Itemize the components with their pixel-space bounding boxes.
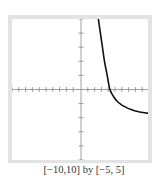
function-curve (98, 19, 148, 113)
function-graph (12, 19, 148, 160)
plot-area (12, 19, 148, 160)
window-range-caption: [−10,10] by [−5, 5] (0, 164, 156, 175)
